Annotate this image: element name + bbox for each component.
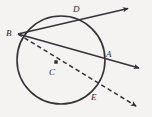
- geometry-canvas: [0, 0, 152, 117]
- center-point-marker: [54, 60, 57, 63]
- point-label-b: B: [6, 29, 12, 38]
- ray-b-to-a: [18, 34, 139, 68]
- circle-outline: [17, 16, 105, 104]
- point-label-a: A: [106, 50, 112, 59]
- point-label-c: C: [49, 68, 55, 77]
- geometry-figure: B D A C E: [0, 0, 152, 117]
- point-label-e: E: [91, 93, 97, 102]
- point-label-d: D: [73, 5, 80, 14]
